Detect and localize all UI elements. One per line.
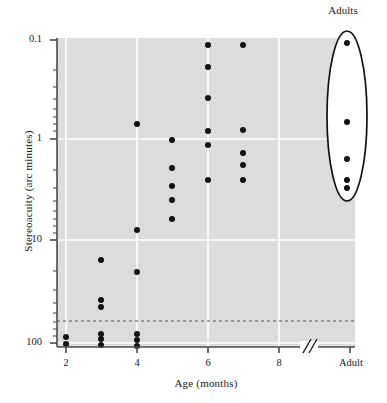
plot-canvas xyxy=(0,0,387,403)
data-point xyxy=(169,183,175,189)
data-point xyxy=(205,64,211,70)
y-tick-label-0-1: 0.1 xyxy=(8,33,42,44)
data-point xyxy=(134,121,140,127)
axis-break-icon xyxy=(300,339,318,354)
data-point xyxy=(134,227,140,233)
data-point xyxy=(134,269,140,275)
data-point xyxy=(169,197,175,203)
data-point xyxy=(240,150,246,156)
stereoacuity-scatter-figure: 0.1 1 10 100 2 4 6 8 Adult Stereoacuity … xyxy=(0,0,387,403)
data-point xyxy=(344,185,350,191)
data-point xyxy=(134,337,140,343)
adults-ellipse-annotation xyxy=(327,31,367,201)
data-point xyxy=(205,128,211,134)
data-point xyxy=(169,137,175,143)
data-point xyxy=(169,216,175,222)
data-point xyxy=(63,341,69,347)
data-point xyxy=(205,95,211,101)
data-point xyxy=(98,257,104,263)
data-point xyxy=(205,142,211,148)
data-point xyxy=(344,177,350,183)
x-tick-label-2: 2 xyxy=(46,357,86,368)
data-point xyxy=(240,127,246,133)
data-point xyxy=(205,177,211,183)
x-tick-label-6: 6 xyxy=(188,357,228,368)
data-point xyxy=(240,42,246,48)
x-tick-label-8: 8 xyxy=(259,357,299,368)
data-point xyxy=(98,304,104,310)
data-point xyxy=(63,334,69,340)
data-point xyxy=(205,42,211,48)
adults-annotation-label: Adults xyxy=(300,4,386,16)
data-point xyxy=(134,331,140,337)
x-tick-label-adult: Adult xyxy=(328,357,374,368)
data-point xyxy=(344,156,350,162)
data-point xyxy=(98,297,104,303)
x-axis-title: Age (months) xyxy=(57,377,355,389)
y-major-ticks xyxy=(50,40,57,343)
data-point xyxy=(98,336,104,342)
y-tick-label-100: 100 xyxy=(8,336,42,347)
data-point xyxy=(344,119,350,125)
data-point xyxy=(240,162,246,168)
x-tick-label-4: 4 xyxy=(117,357,157,368)
y-axis-title: Stereoacuity (arc minutes) xyxy=(22,91,34,291)
data-point xyxy=(240,177,246,183)
data-point xyxy=(344,40,350,46)
data-point xyxy=(169,165,175,171)
